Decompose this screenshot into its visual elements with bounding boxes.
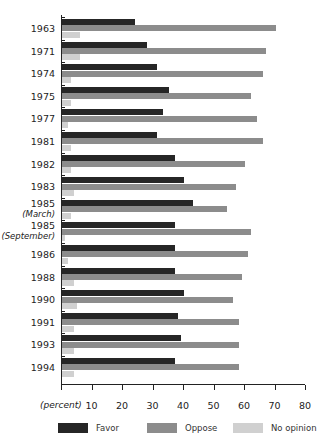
- bar-oppose: [62, 297, 233, 303]
- x-tick-label: 30: [146, 400, 158, 411]
- legend: FavorOpposeNo opinion: [0, 423, 324, 437]
- y-category-sublabel: (September): [1, 231, 55, 241]
- y-axis-tick: [61, 85, 65, 86]
- y-axis-tick: [61, 153, 65, 154]
- x-tick-label: 60: [238, 400, 250, 411]
- y-category-year: 1974: [31, 68, 55, 79]
- bar-no-opinion: [62, 213, 71, 219]
- bar-favor: [62, 313, 178, 319]
- x-tick-label: 20: [116, 400, 128, 411]
- bar-oppose: [62, 93, 251, 99]
- bar-no-opinion: [62, 326, 74, 332]
- bar-oppose: [62, 206, 227, 212]
- bar-no-opinion: [62, 303, 77, 309]
- y-category-label: 1991: [31, 317, 55, 328]
- bar-no-opinion: [62, 280, 74, 286]
- x-tick-label: 80: [299, 400, 311, 411]
- bar-no-opinion: [62, 348, 74, 354]
- legend-label: Favor: [96, 423, 119, 433]
- bar-no-opinion: [62, 54, 80, 60]
- bar-no-opinion: [62, 32, 80, 38]
- y-category-label: 1977: [31, 113, 55, 124]
- bar-oppose: [62, 319, 239, 325]
- x-axis-tick: [214, 385, 215, 390]
- y-axis-tick: [61, 243, 65, 244]
- y-category-label: 1981: [31, 136, 55, 147]
- bar-oppose: [62, 71, 263, 77]
- y-axis-tick: [61, 17, 65, 18]
- legend-label: No opinion: [271, 423, 317, 433]
- bar-no-opinion: [62, 167, 71, 173]
- bar-favor: [62, 87, 169, 93]
- legend-swatch: [58, 423, 88, 433]
- bar-no-opinion: [62, 77, 71, 83]
- bar-oppose: [62, 138, 263, 144]
- bar-no-opinion: [62, 190, 74, 196]
- bar-favor: [62, 290, 184, 296]
- bar-no-opinion: [62, 145, 71, 151]
- y-axis-tick: [61, 288, 65, 289]
- bar-favor: [62, 155, 175, 161]
- horizontal-bar-chart: 196319711974197519771981198219831985(Mar…: [0, 0, 324, 446]
- y-category-year: 1988: [31, 272, 55, 283]
- y-category-label: 1990: [31, 294, 55, 305]
- y-category-label: 1988: [31, 272, 55, 283]
- bar-oppose: [62, 25, 276, 31]
- y-category-year: 1986: [31, 249, 55, 260]
- y-category-sublabel: (March): [22, 209, 55, 219]
- legend-swatch: [233, 423, 263, 433]
- y-category-label: 1982: [31, 159, 55, 170]
- y-category-label: 1993: [31, 339, 55, 350]
- x-axis-tick: [153, 385, 154, 390]
- x-axis-tick: [305, 385, 306, 390]
- y-category-year: 1975: [31, 91, 55, 102]
- y-category-label: 1983: [31, 181, 55, 192]
- y-category-label: 1985(September): [1, 220, 55, 241]
- y-category-year: 1994: [31, 362, 55, 373]
- y-category-year: 1971: [31, 46, 55, 57]
- y-axis-tick: [61, 62, 65, 63]
- x-axis-tick: [183, 385, 184, 390]
- bar-oppose: [62, 161, 245, 167]
- y-category-year: 1990: [31, 294, 55, 305]
- x-axis-tick: [244, 385, 245, 390]
- y-category-year: 1985: [31, 220, 55, 231]
- y-category-label: 1975: [31, 91, 55, 102]
- y-category-label: 1971: [31, 46, 55, 57]
- x-axis-tick: [61, 385, 62, 390]
- bar-oppose: [62, 48, 266, 54]
- y-category-year: 1963: [31, 23, 55, 34]
- bar-favor: [62, 132, 157, 138]
- bar-favor: [62, 358, 175, 364]
- y-axis-tick: [61, 333, 65, 334]
- legend-label: Oppose: [185, 423, 217, 433]
- bar-favor: [62, 177, 184, 183]
- bar-favor: [62, 19, 135, 25]
- bar-favor: [62, 64, 157, 70]
- y-category-label: 1974: [31, 68, 55, 79]
- y-axis-tick: [61, 356, 65, 357]
- chart-title-fragment: [60, 0, 310, 6]
- y-category-label: 1985(March): [22, 198, 55, 219]
- bar-no-opinion: [62, 371, 74, 377]
- y-category-year: 1985: [31, 198, 55, 209]
- y-axis-tick: [61, 107, 65, 108]
- legend-item-favor: Favor: [58, 423, 119, 433]
- bar-oppose: [62, 364, 239, 370]
- bar-oppose: [62, 342, 239, 348]
- y-axis-tick: [61, 266, 65, 267]
- legend-swatch: [147, 423, 177, 433]
- bar-oppose: [62, 184, 236, 190]
- y-axis-tick: [61, 130, 65, 131]
- x-tick-label: 70: [268, 400, 280, 411]
- y-category-label: 1963: [31, 23, 55, 34]
- bar-favor: [62, 268, 175, 274]
- y-axis-tick: [61, 220, 65, 221]
- bar-no-opinion: [62, 122, 68, 128]
- y-category-year: 1983: [31, 181, 55, 192]
- x-axis-tick: [275, 385, 276, 390]
- x-tick-label: 10: [85, 400, 97, 411]
- bar-favor: [62, 109, 163, 115]
- y-axis-tick: [61, 198, 65, 199]
- bar-oppose: [62, 251, 248, 257]
